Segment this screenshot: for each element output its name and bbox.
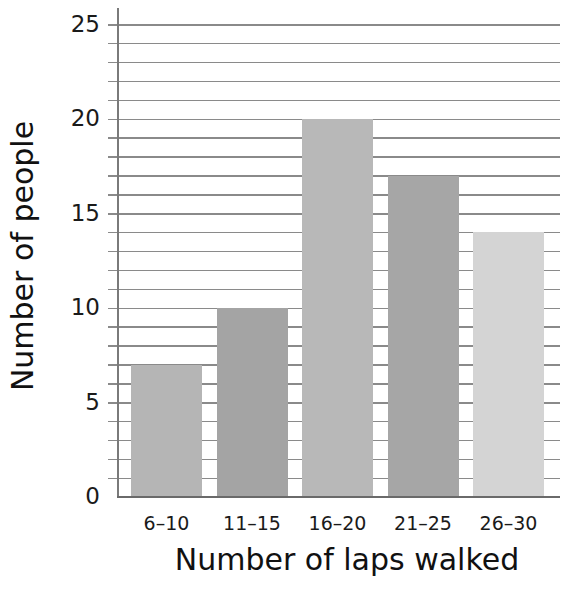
x-tick-label: 11–15 — [207, 512, 297, 534]
bar-16–20 — [302, 119, 373, 497]
y-tick-label: 10 — [40, 296, 100, 319]
grid-line — [108, 62, 560, 64]
x-tick-label: 21–25 — [378, 512, 468, 534]
x-tick-label: 26–30 — [464, 512, 554, 534]
x-tick-label: 6–10 — [122, 512, 212, 534]
x-tick-label: 16–20 — [293, 512, 383, 534]
bar-11–15 — [217, 308, 288, 497]
y-tick-label: 15 — [40, 202, 100, 225]
y-tick-label: 5 — [40, 391, 100, 414]
y-axis-label: Number of people — [5, 121, 40, 391]
x-axis-label: Number of laps walked — [118, 542, 576, 577]
x-axis-line — [117, 496, 560, 498]
grid-line — [108, 100, 560, 102]
y-tick-label: 0 — [40, 485, 100, 508]
y-tick-label: 20 — [40, 107, 100, 130]
bar-chart: 0510152025 6–1011–1516–2021–2526–30 Numb… — [0, 0, 578, 597]
bar-21–25 — [388, 176, 459, 497]
y-axis-line — [117, 8, 119, 498]
grid-line — [108, 24, 560, 26]
bar-6–10 — [131, 365, 202, 497]
bar-26–30 — [473, 232, 544, 497]
grid-line — [108, 43, 560, 45]
grid-line — [108, 81, 560, 83]
y-tick-label: 25 — [40, 13, 100, 36]
